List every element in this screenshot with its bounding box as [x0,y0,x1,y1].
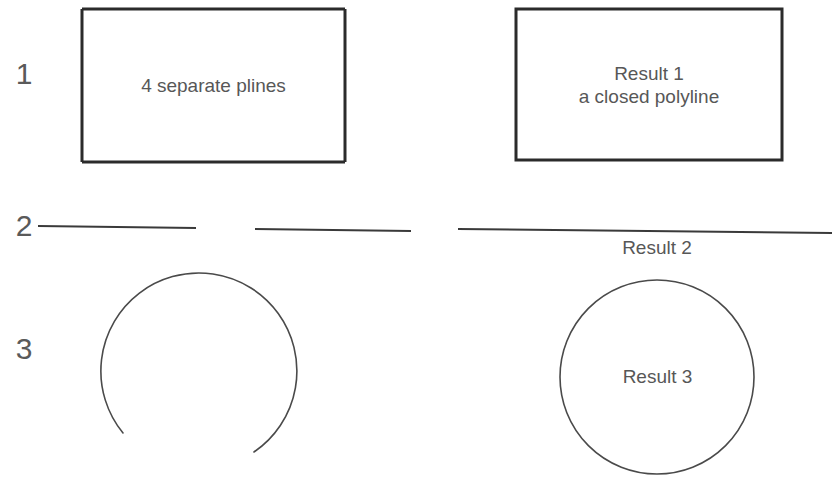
label-result-1: Result 1 a closed polyline [516,62,782,108]
label-four-separate-plines: 4 separate plines [82,74,345,97]
line-before-segment-2 [255,229,411,231]
diagram-canvas: 1 2 3 4 separate plines Result 1 a close… [0,0,832,487]
arc-before-open [101,273,297,452]
shape-lines-before [38,226,411,231]
shape-arc-before [101,273,297,452]
label-result-3: Result 3 [560,365,755,388]
row-number-1: 1 [4,59,44,89]
line-before-segment-1 [38,226,196,228]
row-number-2: 2 [4,211,44,241]
label-result-2: Result 2 [557,236,757,259]
line-after-joined [458,229,832,233]
shape-line-after [458,229,832,233]
row-number-3: 3 [4,334,44,364]
